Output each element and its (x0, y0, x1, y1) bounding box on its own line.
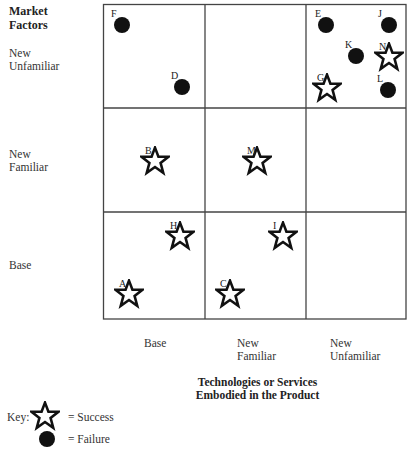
failure-circle-icon (114, 17, 130, 33)
point-h: H (167, 220, 194, 248)
point-c: C (217, 278, 244, 306)
legend-failure-label: = Failure (68, 433, 110, 446)
point-f: F (111, 8, 130, 33)
point-i: I (270, 220, 297, 248)
point-label: B (145, 145, 152, 156)
point-label: G (317, 72, 324, 83)
point-label: K (345, 39, 353, 50)
point-label: M (247, 145, 256, 156)
point-label: I (273, 220, 276, 231)
point-n: N (376, 41, 403, 69)
point-label: J (378, 8, 382, 19)
point-a: A (116, 278, 143, 306)
point-b: B (142, 145, 169, 173)
legend (32, 403, 59, 447)
point-label: D (171, 70, 178, 81)
point-label: E (315, 8, 321, 19)
failure-circle-icon (174, 79, 190, 95)
star-icon (32, 403, 59, 428)
point-m: M (244, 145, 271, 173)
point-l: L (377, 73, 396, 98)
failure-circle-icon (380, 82, 396, 98)
point-g: G (314, 72, 341, 100)
data-points: FDEJKNGLBMHIAC (111, 8, 402, 306)
failure-circle-icon (381, 17, 397, 33)
point-e: E (315, 8, 334, 33)
point-k: K (345, 39, 364, 64)
legend-key-label: Key: (7, 411, 29, 424)
point-label: F (111, 8, 117, 19)
point-label: N (379, 41, 386, 52)
point-label: A (119, 278, 127, 289)
point-label: H (170, 220, 177, 231)
failure-circle-icon (348, 48, 364, 64)
matrix-chart: FDEJKNGLBMHIAC (0, 0, 410, 456)
point-j: J (378, 8, 397, 33)
point-d: D (171, 70, 190, 95)
point-label: L (377, 73, 383, 84)
circle-icon (39, 431, 55, 447)
legend-success-label: = Success (68, 411, 114, 424)
point-label: C (220, 278, 227, 289)
failure-circle-icon (318, 17, 334, 33)
